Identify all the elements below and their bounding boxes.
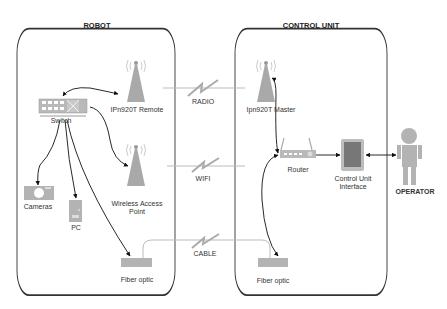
wap-label-1: Wireless Access: [112, 200, 163, 208]
fiber-robot-label: Fiber optic: [121, 276, 154, 284]
switch-icon: [39, 99, 87, 116]
switch-pc-link: [65, 120, 76, 198]
switch-label: Switch: [51, 117, 72, 125]
control-unit-container: [235, 29, 387, 295]
router-label: Router: [287, 166, 308, 174]
fiber-cu-label: Fiber optic: [257, 277, 290, 285]
ipn-master-label: Ipn920T Master: [247, 106, 296, 114]
operator-label: OPERATOR: [395, 188, 434, 196]
radio-label: RADIO: [192, 98, 214, 105]
master-router-link: [272, 78, 278, 153]
camera-icon: [24, 186, 54, 200]
wap-label-2: Point: [129, 208, 145, 216]
cable-label: CABLE: [194, 250, 217, 257]
wifi-link: [167, 158, 245, 172]
antenna-remote-icon: [127, 60, 146, 102]
antenna-master-icon: [257, 60, 276, 102]
operator-icon: [397, 128, 422, 185]
pc-icon: [69, 200, 82, 222]
cui-label-2: Interface: [339, 183, 366, 191]
cameras-label: Cameras: [24, 203, 52, 211]
router-fiber-link: [262, 155, 278, 256]
switch-remote-link: [63, 88, 118, 96]
antenna-wap-icon: [127, 144, 146, 186]
tablet-icon: [341, 139, 364, 171]
switch-wap-link: [90, 107, 128, 166]
switch-fiber-link: [67, 120, 130, 256]
network-diagram: [0, 0, 447, 309]
robot-title: ROBOT: [83, 21, 110, 30]
fiber-optic-robot-icon: [121, 258, 152, 267]
robot-container: [17, 29, 175, 295]
control-unit-title: CONTROL UNIT: [283, 21, 340, 30]
fiber-optic-cu-icon: [258, 258, 288, 267]
ipn-remote-label: IPn920T Remote: [111, 106, 164, 114]
router-icon: [280, 138, 316, 158]
switch-camera-link: [38, 120, 60, 185]
pc-label: PC: [71, 224, 81, 232]
wifi-label: WIFI: [196, 175, 211, 182]
cui-label-1: Control Unit: [335, 175, 372, 183]
